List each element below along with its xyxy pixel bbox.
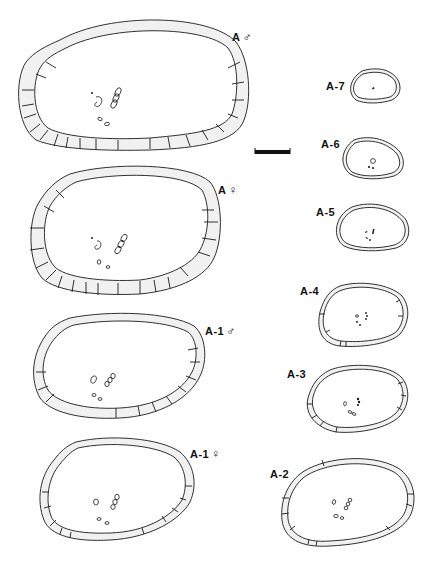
- label-text: A-1: [190, 448, 209, 460]
- carapace-a7: [351, 69, 400, 103]
- label-text: A-1: [205, 325, 224, 337]
- scale-bar: [255, 148, 290, 154]
- label-a4: A-4: [300, 285, 319, 297]
- label-a2: A-2: [270, 468, 289, 480]
- label-a5: A-5: [316, 206, 335, 218]
- carapace-a4: [319, 283, 408, 347]
- male-symbol-icon: ♂: [226, 324, 236, 338]
- male-symbol-icon: ♂: [242, 30, 252, 44]
- carapace-a5: [336, 204, 408, 251]
- label-a6: A-6: [321, 138, 340, 150]
- label-text: A: [218, 184, 226, 196]
- label-a-female: A♀: [218, 183, 238, 197]
- carapace-a1-male: [34, 313, 205, 418]
- carapace-a6: [343, 138, 403, 179]
- carapace-a-male: [19, 20, 249, 150]
- label-a7: A-7: [326, 80, 345, 92]
- carapace-a-female: [30, 166, 220, 295]
- carapace-a1-female: [40, 438, 194, 540]
- label-a1-male: A-1♂: [205, 324, 236, 338]
- label-a1-female: A-1♀: [190, 447, 221, 461]
- label-a-male: A♂: [232, 30, 252, 44]
- female-symbol-icon: ♀: [211, 447, 221, 461]
- female-symbol-icon: ♀: [228, 183, 238, 197]
- carapace-a3: [307, 365, 408, 432]
- label-text: A: [232, 31, 240, 43]
- carapace-a2: [282, 459, 414, 547]
- label-a3: A-3: [287, 368, 306, 380]
- figure-plate: A♂ A♀ A-1♂ A-1♀ A-7 A-6 A-5 A-4 A-3 A-2: [0, 0, 435, 563]
